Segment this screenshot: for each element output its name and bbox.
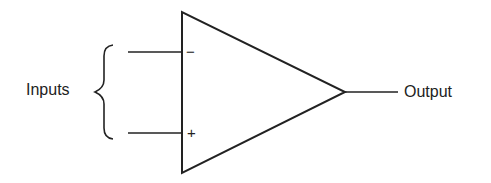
inputs-brace <box>95 45 113 139</box>
output-label: Output <box>404 84 452 100</box>
amplifier-triangle <box>182 12 345 173</box>
op-amp-diagram: − + Inputs Output <box>0 0 491 183</box>
inputs-label: Inputs <box>26 82 70 98</box>
non-inverting-sign: + <box>187 125 196 140</box>
inverting-sign: − <box>186 44 195 59</box>
